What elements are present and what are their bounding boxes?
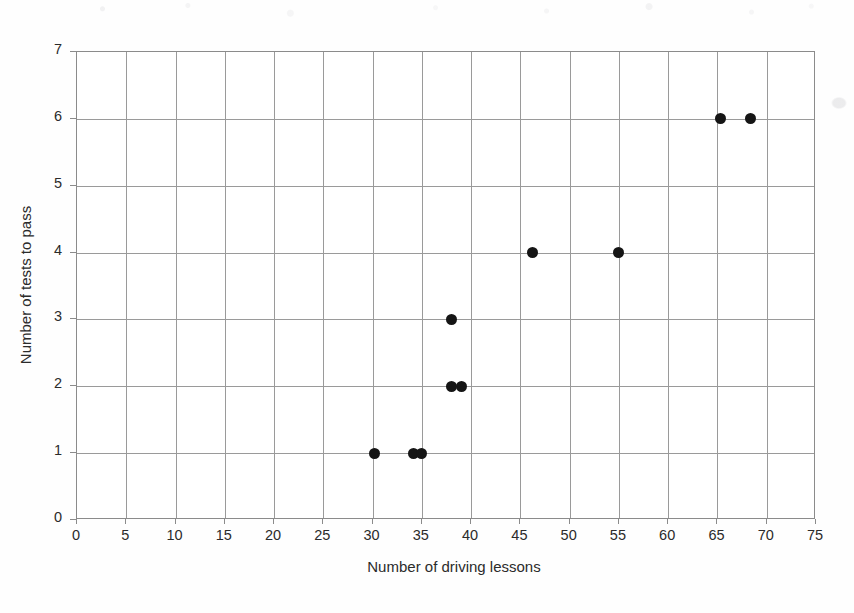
x-tick-mark <box>569 519 570 524</box>
data-point <box>745 113 756 124</box>
y-tick-label: 1 <box>36 442 62 458</box>
y-tick-mark <box>70 51 76 52</box>
y-tick-mark <box>70 185 76 186</box>
y-tick-label: 3 <box>36 308 62 324</box>
y-tick-label: 6 <box>36 108 62 124</box>
x-tick-mark <box>766 519 767 524</box>
x-tick-label: 0 <box>56 527 96 543</box>
vertical-gridline <box>274 52 275 518</box>
x-tick-mark <box>76 519 77 524</box>
horizontal-gridline <box>77 453 814 454</box>
x-tick-label: 70 <box>746 527 786 543</box>
x-tick-mark <box>421 519 422 524</box>
scatter-chart-figure: 051015202530354045505560657075 01234567 … <box>0 0 854 613</box>
x-tick-mark <box>125 519 126 524</box>
vertical-gridline <box>176 52 177 518</box>
y-tick-mark <box>70 318 76 319</box>
x-tick-label: 25 <box>302 527 342 543</box>
x-tick-mark <box>273 519 274 524</box>
x-tick-mark <box>815 519 816 524</box>
y-tick-label: 5 <box>36 175 62 191</box>
x-tick-mark <box>519 519 520 524</box>
x-tick-mark <box>716 519 717 524</box>
data-point <box>613 247 624 258</box>
y-tick-mark <box>70 452 76 453</box>
data-point <box>715 113 726 124</box>
x-tick-label: 20 <box>253 527 293 543</box>
vertical-gridline <box>570 52 571 518</box>
y-axis-title: Number of tests to pass <box>14 51 38 519</box>
vertical-gridline <box>619 52 620 518</box>
vertical-gridline <box>668 52 669 518</box>
scan-artifact-top <box>0 0 854 22</box>
x-tick-mark <box>470 519 471 524</box>
y-tick-mark <box>70 385 76 386</box>
x-tick-label: 60 <box>647 527 687 543</box>
y-tick-label: 4 <box>36 242 62 258</box>
vertical-gridline <box>323 52 324 518</box>
horizontal-gridline <box>77 186 814 187</box>
x-tick-label: 40 <box>450 527 490 543</box>
x-tick-label: 15 <box>204 527 244 543</box>
data-point <box>456 381 467 392</box>
x-tick-mark <box>618 519 619 524</box>
vertical-gridline <box>520 52 521 518</box>
vertical-gridline <box>126 52 127 518</box>
y-tick-mark <box>70 519 76 520</box>
x-tick-label: 50 <box>549 527 589 543</box>
x-tick-label: 45 <box>499 527 539 543</box>
scan-artifact-right <box>830 96 848 110</box>
y-tick-mark <box>70 252 76 253</box>
y-tick-label: 2 <box>36 375 62 391</box>
data-point <box>369 448 380 459</box>
x-tick-label: 55 <box>598 527 638 543</box>
data-point <box>446 314 457 325</box>
vertical-gridline <box>225 52 226 518</box>
x-tick-mark <box>175 519 176 524</box>
vertical-gridline <box>471 52 472 518</box>
x-tick-mark <box>372 519 373 524</box>
x-axis-title: Number of driving lessons <box>0 558 854 575</box>
x-tick-label: 65 <box>696 527 736 543</box>
x-tick-mark <box>322 519 323 524</box>
x-tick-label: 5 <box>105 527 145 543</box>
data-point <box>527 247 538 258</box>
y-tick-label: 7 <box>36 41 62 57</box>
data-point <box>416 448 427 459</box>
x-tick-mark <box>224 519 225 524</box>
horizontal-gridline <box>77 253 814 254</box>
vertical-gridline <box>767 52 768 518</box>
x-tick-label: 75 <box>795 527 835 543</box>
x-tick-label: 10 <box>155 527 195 543</box>
y-tick-label: 0 <box>36 509 62 525</box>
x-tick-label: 30 <box>352 527 392 543</box>
x-tick-label: 35 <box>401 527 441 543</box>
horizontal-gridline <box>77 119 814 120</box>
x-tick-mark <box>667 519 668 524</box>
y-tick-mark <box>70 118 76 119</box>
plot-area <box>76 51 815 519</box>
